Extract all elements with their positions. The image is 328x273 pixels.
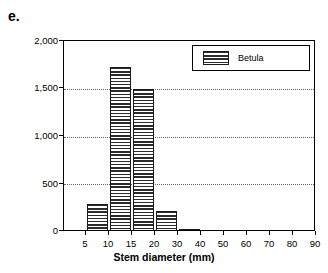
gridline-1,000 — [64, 137, 314, 138]
bar-10-15 — [110, 67, 131, 230]
x-axis-title: Stem diameter (mm) — [0, 252, 328, 263]
x-tick-mark-30 — [177, 231, 178, 235]
x-tick-mark-10 — [108, 231, 109, 235]
legend: Betula — [192, 45, 310, 71]
x-tick-label-30: 30 — [172, 239, 183, 249]
legend-swatch-betula — [203, 51, 229, 65]
x-tick-label-20: 20 — [149, 239, 160, 249]
plot-area: Betula — [63, 40, 315, 231]
bar-15-20 — [133, 89, 154, 230]
x-tick-label-5: 5 — [82, 239, 87, 249]
y-tick-label-2000: 2,000 — [18, 36, 58, 46]
x-tick-mark-15 — [131, 231, 132, 235]
x-tick-label-50: 50 — [218, 239, 229, 249]
x-tick-label-60: 60 — [241, 239, 252, 249]
bar-5-10 — [87, 204, 108, 230]
gridline-1,500 — [64, 89, 314, 90]
x-tick-mark-90 — [315, 231, 316, 235]
panel-label: e. — [8, 9, 20, 23]
gridline-500 — [64, 184, 314, 185]
y-tick-label-1000: 1,000 — [18, 131, 58, 141]
x-tick-label-90: 90 — [310, 239, 321, 249]
x-tick-mark-80 — [292, 231, 293, 235]
x-tick-mark-70 — [269, 231, 270, 235]
figure-panel-e: e. 05001,0001,5002,000 Betula 5101520304… — [0, 0, 328, 273]
bar-30-40 — [179, 229, 200, 230]
x-tick-label-70: 70 — [264, 239, 275, 249]
x-tick-label-10: 10 — [103, 239, 114, 249]
legend-label-betula: Betula — [238, 54, 264, 63]
x-tick-mark-20 — [154, 231, 155, 235]
y-tick-label-0: 0 — [18, 226, 58, 236]
bar-20-30 — [156, 211, 177, 230]
x-tick-label-80: 80 — [287, 239, 298, 249]
y-tick-label-1500: 1,500 — [18, 83, 58, 93]
x-tick-mark-50 — [223, 231, 224, 235]
x-tick-mark-60 — [246, 231, 247, 235]
y-tick-label-500: 500 — [18, 179, 58, 189]
x-tick-label-15: 15 — [126, 239, 137, 249]
x-tick-mark-40 — [200, 231, 201, 235]
x-tick-label-40: 40 — [195, 239, 206, 249]
x-tick-mark-5 — [85, 231, 86, 235]
